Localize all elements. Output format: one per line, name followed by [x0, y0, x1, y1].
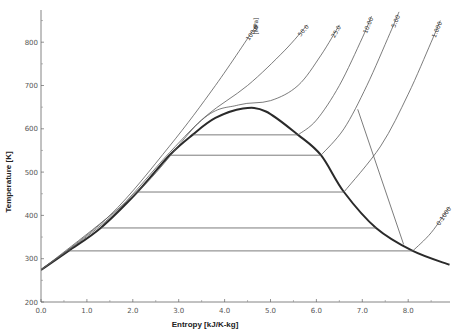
isobar-label: 1.000	[430, 20, 443, 39]
y-tick-label: 800	[25, 39, 38, 47]
isobar-label: 10.00	[361, 16, 374, 35]
y-tick-label: 700	[25, 82, 38, 90]
y-axis-title: Temperature [K]	[4, 151, 13, 213]
saturation-dome-curve	[41, 108, 450, 270]
y-tick-label: 400	[25, 212, 38, 220]
y-tick-label: 200	[25, 299, 38, 307]
isenthalpic-line	[358, 109, 404, 244]
isobar-line	[41, 25, 307, 270]
y-tick-label: 300	[25, 255, 38, 263]
isobar-line	[41, 25, 339, 270]
isobar-line	[41, 25, 257, 270]
x-tick-label: 8.0	[403, 307, 414, 315]
y-tick-label: 600	[25, 125, 38, 133]
isobar-label: 0.1000	[434, 205, 452, 226]
isobar-label: 5.00	[389, 13, 401, 28]
x-tick-label: 7.0	[357, 307, 368, 315]
axes: 0.01.02.03.04.05.06.07.08.02003004005006…	[25, 10, 450, 315]
isobar-label: 50.0	[296, 23, 310, 38]
x-tick-label: 4.0	[219, 307, 230, 315]
y-tick-label: 500	[25, 169, 38, 177]
x-tick-label: 3.0	[173, 307, 184, 315]
x-axis-title: Entropy [kJ/K-kg]	[172, 320, 239, 329]
x-tick-label: 6.0	[311, 307, 322, 315]
x-tick-label: 5.0	[265, 307, 276, 315]
pressure-unit-label: [MPa]	[252, 18, 259, 35]
ts-diagram-chart: 100.050.025.010.005.001.0000.1000[MPa] 0…	[0, 0, 459, 335]
x-tick-label: 2.0	[127, 307, 138, 315]
plot-area: 100.050.025.010.005.001.0000.1000[MPa]	[41, 12, 452, 270]
x-tick-label: 1.0	[81, 307, 92, 315]
isobar-label: 25.0	[329, 24, 342, 39]
x-tick-label: 0.0	[35, 307, 46, 315]
